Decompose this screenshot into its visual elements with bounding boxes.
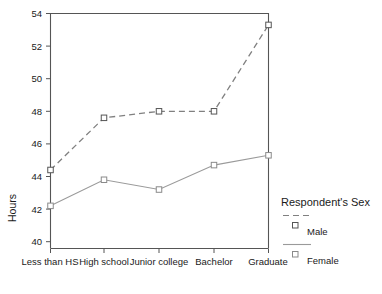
line-chart: 54 52 50 48 46 44 42 40 Hours Less than … (0, 0, 382, 294)
series-line (51, 155, 269, 206)
plot-frame (51, 13, 269, 249)
data-point-marker (156, 187, 162, 193)
legend-marker-square (293, 223, 299, 229)
data-point-marker (48, 167, 54, 173)
y-tick-label: 44 (31, 171, 42, 182)
data-point-marker (101, 115, 107, 121)
x-tick-label: Bachelor (195, 256, 233, 267)
x-axis-tick-labels: Less than HS High school Junior college … (21, 256, 287, 267)
data-point-marker (101, 177, 107, 183)
legend-marker-square (293, 252, 299, 258)
legend-label-male: Male (307, 226, 328, 237)
series-male (48, 22, 272, 173)
legend-item-male[interactable]: Male (283, 216, 328, 238)
series-line (51, 25, 269, 170)
y-tick-label: 40 (31, 236, 42, 247)
y-tick-label: 52 (31, 41, 42, 52)
legend: Respondent's Sex Male Female (281, 196, 382, 273)
series-female (48, 153, 272, 209)
x-tick-label: High school (79, 256, 129, 267)
x-tick-label: Junior college (130, 256, 189, 267)
data-series-layer (48, 22, 272, 208)
legend-entries: Male Female (281, 211, 380, 273)
data-point-marker (266, 153, 272, 159)
legend-item-female[interactable]: Female (283, 245, 339, 267)
legend-title: Respondent's Sex (281, 196, 382, 208)
data-point-marker (211, 162, 217, 168)
y-tick-label: 54 (31, 8, 42, 19)
y-tick-label: 48 (31, 106, 42, 117)
data-point-marker (156, 109, 162, 115)
y-tick-label: 42 (31, 204, 42, 215)
x-tick-label: Less than HS (21, 256, 78, 267)
data-point-marker (211, 109, 217, 115)
y-axis-title: Hours (6, 194, 18, 222)
data-point-marker (48, 203, 54, 209)
data-point-marker (266, 22, 272, 28)
y-tick-label: 46 (31, 138, 42, 149)
x-axis-ticks (51, 249, 269, 254)
legend-label-female: Female (307, 255, 339, 266)
y-axis-tick-labels: 54 52 50 48 46 44 42 40 (31, 8, 42, 247)
y-tick-label: 50 (31, 73, 42, 84)
